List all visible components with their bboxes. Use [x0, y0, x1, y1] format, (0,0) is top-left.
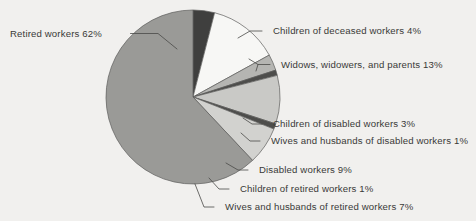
pie-chart-figure: Retired workers 62% Children of deceased… [0, 0, 476, 221]
label-retired-workers: Retired workers 62% [10, 28, 102, 39]
pie-chart-svg: Retired workers 62% Children of deceased… [0, 0, 476, 221]
label-children-of-disabled-workers: Children of disabled workers 3% [273, 118, 416, 129]
label-wives-husbands-disabled-workers: Wives and husbands of disabled workers 1… [271, 135, 468, 146]
label-children-of-deceased-workers: Children of deceased workers 4% [273, 25, 421, 36]
label-children-of-retired-workers: Children of retired workers 1% [240, 183, 374, 194]
pie-slices [106, 10, 280, 184]
label-wives-husbands-retired-workers: Wives and husbands of retired workers 7% [225, 201, 414, 212]
label-disabled-workers: Disabled workers 9% [259, 164, 352, 175]
label-widows-widowers-and-parents: Widows, widowers, and parents 13% [281, 59, 443, 70]
